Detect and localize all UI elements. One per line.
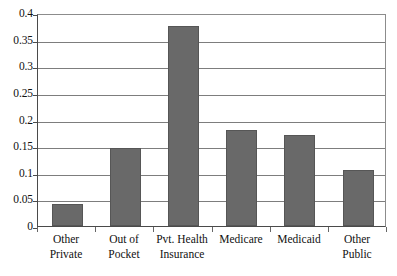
x-axis-tick-label-line: Private — [37, 247, 95, 262]
x-axis-tick-label-line: Other — [344, 233, 370, 245]
x-axis-tick-label-line: Pocket — [95, 247, 153, 262]
y-axis-tick-label: 0.35 — [13, 35, 33, 47]
y-axis-tick-label: 0.15 — [13, 141, 33, 153]
x-axis-tick-label-line: Public — [328, 247, 386, 262]
x-axis-tick-mark — [386, 227, 387, 232]
x-axis-tick-label-line: Medicare — [219, 233, 262, 245]
x-axis-tick-label: OtherPublic — [328, 232, 386, 261]
x-axis-tick-label: Pvt. HealthInsurance — [153, 232, 211, 261]
x-axis-tick-label-line: Out of — [109, 233, 139, 245]
x-axis-tick-label-line: Medicaid — [277, 233, 320, 245]
y-axis-tick-label: 0.05 — [13, 194, 33, 206]
x-axis-tick-label-line: Insurance — [153, 247, 211, 262]
bar — [343, 170, 374, 226]
x-axis-tick-label: OtherPrivate — [37, 232, 95, 261]
y-axis-tick-label: 0.25 — [13, 88, 33, 100]
y-axis-tick-labels: 00.050.10.150.20.250.30.350.4 — [0, 0, 33, 276]
x-axis-tick-label: Out ofPocket — [95, 232, 153, 261]
bar — [226, 130, 257, 226]
x-axis-tick-label-line: Pvt. Health — [156, 233, 208, 245]
bar — [110, 148, 141, 226]
x-axis-tick-label: Medicare — [212, 232, 270, 247]
y-axis-tick-label: 0 — [27, 221, 33, 233]
plot-area — [37, 14, 386, 227]
bar-chart: 00.050.10.150.20.250.30.350.4 OtherPriva… — [0, 0, 397, 276]
x-axis-tick-labels: OtherPrivateOut ofPocketPvt. HealthInsur… — [37, 232, 386, 274]
x-axis-tick-label: Medicaid — [270, 232, 328, 247]
y-axis-tick-label: 0.4 — [19, 8, 33, 20]
bar-series — [38, 15, 385, 226]
y-axis-tick-label: 0.3 — [19, 61, 33, 73]
bar — [52, 204, 83, 226]
bar — [284, 135, 315, 226]
y-axis-tick-label: 0.2 — [19, 115, 33, 127]
y-axis-tick-label: 0.1 — [19, 168, 33, 180]
x-axis-tick-label-line: Other — [53, 233, 79, 245]
bar — [168, 26, 199, 226]
